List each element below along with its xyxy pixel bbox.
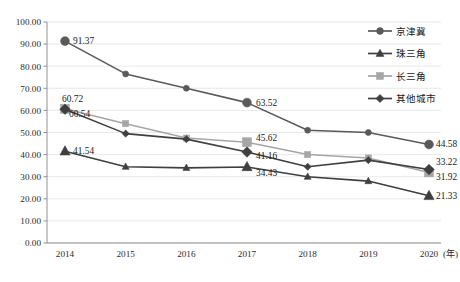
legend-item-3[interactable]: 长三角 <box>368 71 426 82</box>
data-point-marker <box>123 71 129 77</box>
data-point-marker <box>183 85 189 91</box>
data-point-marker <box>123 121 129 127</box>
data-point-label: 33.22 <box>436 157 457 167</box>
data-point-marker <box>242 161 252 170</box>
data-point-marker <box>243 98 252 107</box>
data-point-label: 31.92 <box>436 172 457 182</box>
y-axis-tick-label: 20.00 <box>20 194 41 204</box>
x-axis-tick-label: 2014 <box>56 249 75 259</box>
legend-label: 其他城市 <box>396 93 436 104</box>
y-axis-tick-label: 60.00 <box>20 106 41 116</box>
data-point-marker <box>305 127 311 133</box>
data-labels: 91.3763.5244.5841.5434.4321.3360.7245.62… <box>62 36 457 201</box>
legend-item-1[interactable]: 京津冀 <box>368 26 426 37</box>
legend-label: 珠三角 <box>396 48 426 59</box>
legend-marker-icon <box>377 28 384 35</box>
legend-marker-icon <box>376 94 384 102</box>
data-point-label: 45.62 <box>256 133 277 143</box>
y-axis-tick-label: 10.00 <box>20 216 41 226</box>
x-axis-tick-label: 2019 <box>359 249 378 259</box>
data-point-marker <box>365 130 371 136</box>
data-point-marker <box>122 130 129 137</box>
line-chart: 0.0010.0020.0030.0040.0050.0060.0070.008… <box>0 0 460 282</box>
data-point-label: 34.43 <box>256 168 277 178</box>
legend-item-4[interactable]: 其他城市 <box>368 93 436 104</box>
y-axis-tick-label: 30.00 <box>20 172 41 182</box>
x-axis-tick-label: 2017 <box>238 249 257 259</box>
data-point-marker <box>304 163 311 170</box>
data-point-label: 21.33 <box>436 191 457 201</box>
data-point-label: 44.58 <box>436 139 457 149</box>
data-point-label: 41.54 <box>73 146 94 156</box>
data-point-label: 60.72 <box>62 94 83 104</box>
y-axis-tick-label: 100.00 <box>16 17 42 27</box>
x-axis-tick-label: 2018 <box>298 249 317 259</box>
legend-marker-icon <box>377 73 384 80</box>
y-axis: 0.0010.0020.0030.0040.0050.0060.0070.008… <box>16 17 47 248</box>
legend-label: 长三角 <box>396 71 426 82</box>
legend-label: 京津冀 <box>396 26 426 37</box>
y-axis-tick-label: 40.00 <box>20 150 41 160</box>
chart-legend[interactable]: 京津冀珠三角长三角其他城市 <box>368 26 436 105</box>
x-axis-tick-label: 2015 <box>116 249 135 259</box>
y-axis-tick-label: 0.00 <box>25 238 41 248</box>
data-point-marker <box>60 146 70 155</box>
chart-canvas: 0.0010.0020.0030.0040.0050.0060.0070.008… <box>0 0 460 282</box>
data-point-label: 91.37 <box>73 36 94 46</box>
data-point-marker <box>305 152 311 158</box>
y-axis-tick-label: 70.00 <box>20 84 41 94</box>
data-point-marker <box>242 147 253 158</box>
y-axis-tick-label: 80.00 <box>20 62 41 72</box>
data-point-marker <box>243 138 252 147</box>
data-point-label: 60.54 <box>69 109 90 119</box>
data-series <box>60 37 435 200</box>
data-point-label: 63.52 <box>256 98 277 108</box>
legend-item-2[interactable]: 珠三角 <box>368 48 426 59</box>
x-axis-tick-label: 2020 <box>420 249 439 259</box>
x-axis-unit-label: (年) <box>443 248 458 259</box>
y-axis-tick-label: 90.00 <box>20 39 41 49</box>
x-axis: 2014201520162017201820192020 <box>47 243 441 259</box>
data-point-marker <box>425 140 434 149</box>
y-axis-tick-label: 50.00 <box>20 128 41 138</box>
data-point-label: 41.16 <box>256 151 277 161</box>
x-axis-tick-label: 2016 <box>177 249 196 259</box>
data-point-marker <box>61 37 70 46</box>
